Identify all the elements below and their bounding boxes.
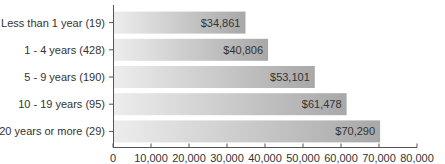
x-tick-label: 30,000 [210,152,244,164]
category-label: 5 - 9 years (190) [24,71,105,83]
category-label: 10 - 19 years (95) [18,98,105,110]
bars-group: $34,861$40,806$53,101$61,478$70,290 [114,12,380,143]
x-tick-label: 0 [110,152,116,164]
bar-value-label: $61,478 [302,98,342,110]
x-tick-label: 80,000 [400,152,434,164]
bar-value-label: $40,806 [223,44,263,56]
x-tick-label: 50,000 [286,152,320,164]
x-ticks-group: 010,00020,00030,00040,00050,00060,00070,… [110,144,434,164]
category-label: 20 years or more (29) [0,125,105,137]
bar-value-label: $34,861 [201,17,241,29]
x-tick-label: 60,000 [324,152,358,164]
x-tick-label: 20,000 [172,152,206,164]
category-label: 1 - 4 years (428) [24,44,105,56]
x-tick-label: 10,000 [134,152,168,164]
x-tick-label: 70,000 [362,152,396,164]
bar-value-label: $70,290 [335,125,375,137]
bar-value-label: $53,101 [270,71,310,83]
category-label: Less than 1 year (19) [1,17,105,29]
x-tick-label: 40,000 [248,152,282,164]
category-labels-group: Less than 1 year (19)1 - 4 years (428)5 … [0,17,105,138]
bar-chart: $34,861$40,806$53,101$61,478$70,290 Less… [0,0,445,164]
